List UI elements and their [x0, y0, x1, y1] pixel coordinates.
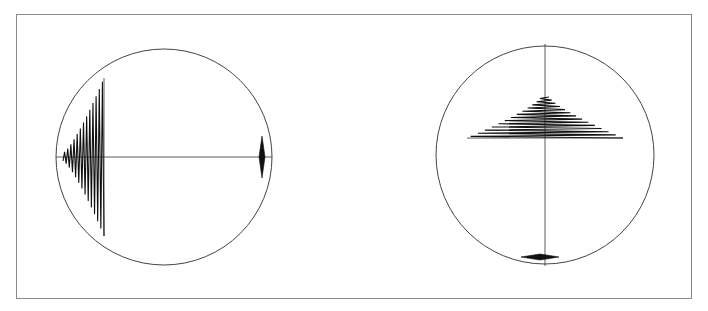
right-diamond-marker — [521, 254, 559, 260]
interference-figure — [0, 0, 708, 311]
right-zigzag-pattern — [471, 97, 623, 138]
right-panel — [436, 44, 654, 266]
left-diamond-marker — [259, 136, 265, 178]
left-panel — [56, 49, 272, 265]
figure-frame — [17, 15, 692, 299]
